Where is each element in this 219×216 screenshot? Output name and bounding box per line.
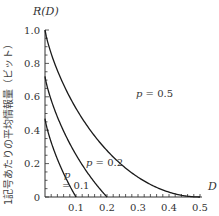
- label-p02: p = 0.2: [86, 157, 123, 168]
- x-tick-label: 0.1: [68, 202, 84, 213]
- y-tick-label: 0.4: [24, 125, 40, 136]
- x-tick-label: 0.4: [161, 202, 177, 213]
- y-tick-label: 0.6: [24, 91, 40, 102]
- y-tick-label: 1.0: [24, 25, 40, 36]
- label-p01-p: p: [64, 169, 71, 180]
- label-p01-val: = 0.1: [62, 180, 89, 191]
- x-axis-title: D: [207, 180, 217, 193]
- curve-p02: [45, 76, 107, 197]
- label-p05: p = 0.5: [136, 88, 173, 99]
- y-tick-label: 0: [34, 192, 40, 203]
- y-axis-title: R(D): [32, 5, 59, 18]
- rate-distortion-chart: 1記号あたりの平均情報量（ビット） R(D) D 00.20.40.60.81.…: [0, 0, 219, 216]
- x-tick-label: 0.3: [130, 202, 146, 213]
- y-tick-label: 0.2: [24, 158, 40, 169]
- y-tick-label: 0.8: [24, 58, 40, 69]
- x-tick-label: 0.2: [99, 202, 115, 213]
- x-tick-label: 0.5: [192, 202, 208, 213]
- y-side-label: 1記号あたりの平均情報量（ビット）: [2, 39, 14, 205]
